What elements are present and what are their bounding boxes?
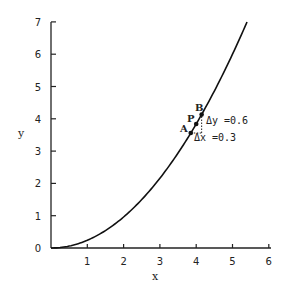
x-tick-label: 3 — [157, 256, 163, 267]
x-tick-label: 1 — [84, 256, 90, 267]
y-tick-label: 7 — [35, 17, 41, 28]
x-tick-label: 6 — [266, 256, 272, 267]
point-label-p: P — [187, 113, 195, 124]
x-axis-title: x — [152, 270, 159, 283]
delta-y-annotation: Δy =0.6 — [206, 115, 248, 126]
axes — [51, 22, 271, 248]
x-tick-label: 2 — [120, 256, 126, 267]
point-label-b: B — [195, 102, 203, 113]
point-a — [188, 131, 193, 136]
y-tick-label: 4 — [35, 114, 41, 125]
point-p — [194, 122, 199, 127]
y-tick-label: 2 — [35, 178, 41, 189]
y-tick-label: 1 — [35, 211, 41, 222]
delta-x-annotation: Δx =0.3 — [194, 132, 236, 143]
chart-canvas: 01234567 123456 y x B P A Δy =0.6 Δx =0.… — [0, 0, 286, 293]
x-tick-label: 5 — [229, 256, 235, 267]
x-tick-label: 4 — [193, 256, 199, 267]
y-axis-title: y — [17, 127, 25, 140]
y-ticks: 01234567 — [35, 17, 56, 254]
y-tick-label: 3 — [35, 146, 41, 157]
y-tick-label: 0 — [35, 243, 41, 254]
point-label-a: A — [179, 123, 188, 134]
y-tick-label: 6 — [35, 49, 41, 60]
y-tick-label: 5 — [35, 82, 41, 93]
